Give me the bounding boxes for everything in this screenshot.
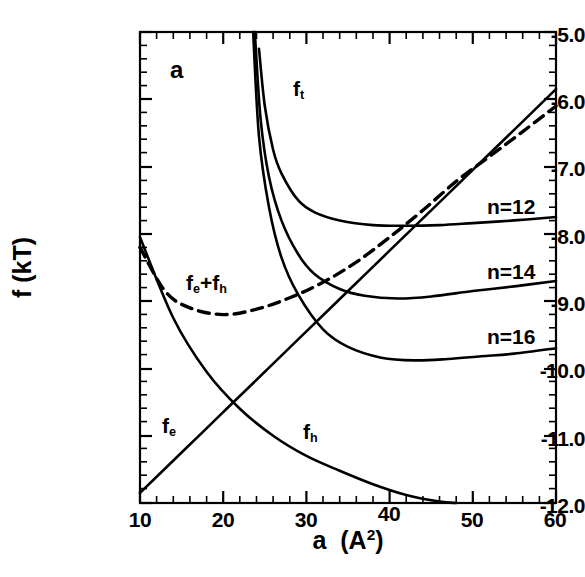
curve-label-fe-symbol: f: [186, 271, 193, 294]
curve-label-n16: n=16: [487, 326, 535, 347]
curve-label-fh-symbol: f: [303, 420, 310, 443]
curve-label-fe-symbol: f: [162, 414, 169, 437]
curve-label-fe-plus-fh: fe+fh: [186, 272, 227, 296]
curve-f-t-n-14: [255, 32, 556, 298]
curve-label-fh-subscript: h: [219, 282, 227, 296]
curve-label-fh-subscript: h: [310, 431, 318, 445]
curve-label-ft-subscript: t: [300, 88, 304, 102]
curve-label-n14: n=14: [487, 261, 535, 282]
curve-label-fe-subscript: e: [193, 282, 200, 296]
curve-label-ft-symbol: f: [293, 77, 300, 100]
curve-label-n12: n=12: [487, 196, 535, 217]
curve-label-plus-fh-symbol: +f: [200, 271, 219, 294]
curve-label-fe: fe: [162, 415, 176, 439]
chart-figure: f (kT) a (A2) -5.0 -6.0 -7.0 -8.0 -9.0 -…: [0, 0, 585, 577]
curve-label-fh: fh: [303, 421, 318, 445]
curve-label-fe-subscript: e: [169, 425, 176, 439]
curve-label-ft: ft: [293, 78, 304, 102]
